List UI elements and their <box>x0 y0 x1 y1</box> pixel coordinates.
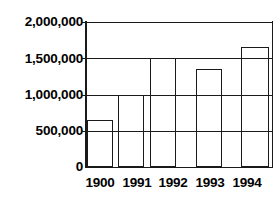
y-tick-mark <box>81 131 86 132</box>
x-axis-tick-label-1900: 1900 <box>86 176 115 190</box>
y-axis-tick-label: 0 <box>0 160 83 174</box>
bar-1992 <box>150 58 176 167</box>
bar-1993 <box>196 69 222 167</box>
bar-chart: 2,000,000 1,500,000 1,000,000 500,000 0 … <box>0 0 280 204</box>
x-axis-tick-label-1992: 1992 <box>159 176 188 190</box>
bar-1994 <box>241 47 269 167</box>
x-axis-tick-label-1994: 1994 <box>233 176 262 190</box>
y-tick-mark <box>81 95 86 96</box>
y-axis-tick-label: 2,000,000 <box>0 15 83 29</box>
y-axis-tick-label: 1,500,000 <box>0 52 83 66</box>
y-axis-tick-label: 1,000,000 <box>0 88 83 102</box>
plot-area <box>86 22 272 167</box>
x-axis-tick-label-1991: 1991 <box>123 176 152 190</box>
x-axis-tick-label-1993: 1993 <box>196 176 225 190</box>
y-tick-mark <box>81 58 86 59</box>
bar-1900 <box>87 120 113 167</box>
bar-1991 <box>118 95 144 168</box>
y-tick-mark <box>81 22 86 23</box>
y-axis-tick-label: 500,000 <box>0 124 83 138</box>
gridline-2000000 <box>86 22 272 23</box>
